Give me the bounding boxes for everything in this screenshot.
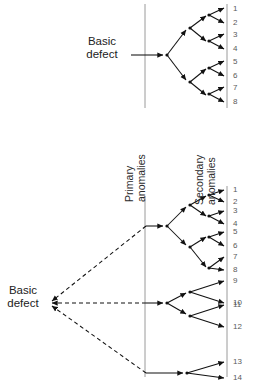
top-leaf-number-2: 2 — [233, 19, 237, 27]
bottom-leaf-number-9: 9 — [233, 277, 237, 285]
top-branch-l2-d — [190, 82, 206, 95]
top-branch-l1-lower — [167, 55, 186, 80]
top-leaf-4 — [209, 41, 224, 49]
top-branch-l2-b — [190, 28, 206, 41]
top-leaf-1 — [209, 8, 224, 15]
bottom-leaf-number-3: 3 — [233, 207, 237, 215]
top-leaf-2 — [209, 15, 224, 23]
bottom-tree-branch-b — [146, 281, 224, 327]
top-leaf-3 — [209, 34, 224, 41]
bottom-leaf-number-7: 7 — [233, 253, 237, 261]
top-leaf-number-8: 8 — [233, 98, 237, 106]
bottom-leaf-number-5: 5 — [233, 228, 237, 236]
bottom-leaf-number-14: 14 — [233, 374, 242, 382]
bottom-tree-branch-c — [146, 362, 224, 378]
bottom-dashed-links — [52, 226, 146, 373]
bottom-a-node-lower — [188, 245, 191, 248]
bottom-leaf-number-2: 2 — [233, 198, 237, 206]
bottom-a-node-upper — [188, 203, 191, 206]
bottom-a-node-root — [165, 224, 168, 227]
bottom-leaf-4 — [209, 216, 224, 224]
top-leaf-number-6: 6 — [233, 72, 237, 80]
top-leaf-6 — [209, 68, 224, 76]
top-node-b — [207, 39, 210, 42]
top-leaf-number-1: 1 — [233, 5, 237, 13]
bottom-b-node-upper — [188, 290, 191, 293]
top-node-a — [207, 13, 210, 16]
bottom-c-node-root — [185, 371, 188, 374]
bottom-dashed-upper — [52, 226, 146, 301]
top-branch-l1-upper — [167, 30, 186, 55]
bottom-leaf-7 — [209, 257, 224, 268]
bottom-leaf-13 — [187, 362, 224, 373]
basic-defect-top-line2: defect — [75, 48, 129, 61]
bottom-b-node-root — [165, 301, 168, 304]
basic-defect-label-top: Basic defect — [75, 35, 129, 61]
basic-defect-bottom-line1: Basic — [0, 284, 50, 297]
bottom-leaf-number-1: 1 — [233, 186, 237, 194]
bottom-leaf-9 — [190, 281, 224, 292]
bottom-leaf-number-6: 6 — [233, 242, 237, 250]
bottom-leaf-number-11: 11 — [233, 301, 241, 309]
top-branch-l2-c — [190, 69, 206, 82]
bottom-a-node-c — [207, 235, 210, 238]
bottom-a-l2-b — [190, 205, 206, 216]
primary-anomalies-label-line1: Primary — [123, 166, 135, 202]
bottom-dashed-lower — [52, 306, 146, 373]
top-node-c — [207, 66, 210, 69]
bottom-a-l1-lower — [167, 226, 186, 245]
top-branch-l2-a — [190, 16, 206, 28]
bottom-leaf-3 — [209, 211, 224, 216]
basic-defect-bottom-line2: defect — [0, 297, 50, 310]
bottom-leaf-number-12: 12 — [233, 323, 242, 331]
top-node-upper — [188, 26, 191, 29]
bottom-leaf-14 — [187, 373, 224, 378]
top-leaf-5 — [209, 61, 224, 68]
top-node-d — [207, 92, 210, 95]
top-leaf-7 — [209, 87, 224, 94]
secondary-anomalies-label-line2: anomalies — [205, 157, 217, 205]
bottom-leaf-number-13: 13 — [233, 358, 242, 366]
top-node-root — [165, 53, 168, 56]
bottom-leaf-10 — [190, 292, 224, 303]
bottom-a-l1-upper — [167, 207, 186, 226]
fault-tree-diagram: Basic defect Basic defect Primary anomal… — [0, 0, 259, 385]
bottom-a-l2-c — [190, 237, 206, 247]
top-leaf-number-3: 3 — [233, 31, 237, 39]
bottom-leaf-8 — [209, 268, 224, 270]
basic-defect-top-line1: Basic — [75, 35, 129, 48]
top-leaf-8 — [209, 94, 224, 102]
top-leaf-number-7: 7 — [233, 84, 237, 92]
bottom-b-l1-upper — [167, 293, 186, 303]
primary-anomalies-label-line2: anomalies — [135, 154, 147, 202]
bottom-leaf-11 — [190, 305, 224, 316]
bottom-a-node-b — [207, 214, 210, 217]
bottom-b-l1-lower — [167, 303, 186, 314]
bottom-leaf-6 — [209, 237, 224, 246]
bottom-a-node-d — [207, 266, 210, 269]
top-node-lower — [188, 80, 191, 83]
secondary-anomalies-label-line1: Secondary — [193, 155, 205, 205]
bottom-leaf-number-8: 8 — [233, 266, 237, 274]
top-leaf-number-5: 5 — [233, 58, 237, 66]
basic-defect-label-bottom: Basic defect — [0, 284, 50, 310]
bottom-leaf-5 — [209, 232, 224, 237]
bottom-b-node-lower — [188, 314, 191, 317]
bottom-leaf-12 — [190, 316, 224, 327]
top-leaf-number-4: 4 — [233, 45, 237, 53]
bottom-a-l2-d — [190, 247, 206, 267]
